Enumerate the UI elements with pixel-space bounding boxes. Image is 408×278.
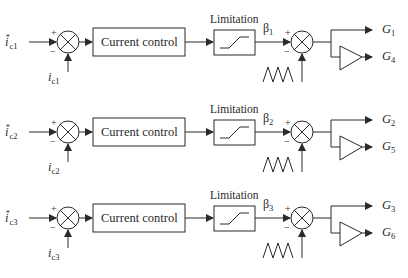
minus-sign: − [50, 47, 56, 57]
reference-current-label: i*c1 [5, 34, 18, 51]
plus-sign: + [51, 28, 57, 38]
minus-sign: − [50, 223, 56, 233]
limitation-label: Limitation [210, 14, 259, 26]
feedback-current-label: ic2 [48, 161, 60, 176]
gate-output-inverted-label: G6 [382, 226, 395, 241]
phase-row-3 [29, 204, 372, 258]
plus-sign: + [285, 204, 291, 214]
minus-sign: − [284, 137, 290, 147]
beta-label: β1 [263, 22, 273, 37]
plus-sign: + [285, 28, 291, 38]
gate-output-label: G2 [382, 113, 395, 128]
diagram-canvas [0, 0, 408, 278]
feedback-current-label: ic3 [48, 247, 60, 262]
beta-label: β3 [263, 198, 273, 213]
beta-label: β2 [263, 112, 273, 127]
reference-current-label: i*c3 [5, 210, 18, 227]
plus-sign: + [285, 118, 291, 128]
current-control-block: Current control [101, 126, 178, 139]
plus-sign: + [51, 118, 57, 128]
gate-output-label: G3 [382, 199, 395, 214]
current-control-block: Current control [101, 36, 178, 49]
phase-row-1 [29, 28, 372, 82]
gate-output-label: G1 [382, 23, 395, 38]
gate-output-inverted-label: G4 [382, 50, 395, 65]
reference-current-label: i*c2 [5, 124, 18, 141]
gate-output-inverted-label: G5 [382, 140, 395, 155]
plus-sign: + [51, 204, 57, 214]
minus-sign: − [284, 223, 290, 233]
minus-sign: − [50, 137, 56, 147]
phase-row-2 [29, 118, 372, 172]
limitation-label: Limitation [210, 190, 259, 202]
feedback-current-label: ic1 [48, 71, 60, 86]
current-control-block: Current control [101, 212, 178, 225]
minus-sign: − [284, 47, 290, 57]
limitation-label: Limitation [210, 104, 259, 116]
